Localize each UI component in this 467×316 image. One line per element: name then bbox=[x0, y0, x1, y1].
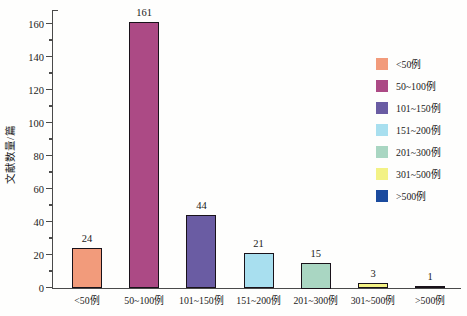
bar bbox=[186, 215, 216, 289]
y-tick-label: 100 bbox=[18, 117, 44, 128]
legend-swatch bbox=[376, 58, 388, 70]
bar bbox=[301, 263, 331, 289]
y-major-tick bbox=[46, 56, 52, 57]
y-minor-tick bbox=[49, 204, 53, 205]
y-tick-label: 60 bbox=[18, 183, 44, 194]
x-tick-label: 50~100例 bbox=[111, 293, 177, 307]
x-tick-label: 151~200例 bbox=[226, 293, 292, 307]
y-minor-tick bbox=[49, 237, 53, 238]
y-tick-label: 0 bbox=[18, 282, 44, 293]
legend-label: 201~300例 bbox=[396, 145, 441, 159]
bar-value-label: 3 bbox=[351, 268, 395, 279]
x-tick-label: >500例 bbox=[397, 293, 463, 307]
y-tick-label: 40 bbox=[18, 216, 44, 227]
y-tick-label: 160 bbox=[18, 18, 44, 29]
legend-item: 50~100例 bbox=[376, 75, 441, 97]
y-tick-label: 80 bbox=[18, 150, 44, 161]
y-major-tick bbox=[46, 122, 52, 123]
legend-swatch bbox=[376, 168, 388, 180]
legend-swatch bbox=[376, 190, 388, 202]
y-minor-tick bbox=[49, 39, 53, 40]
x-tick-label: 101~150例 bbox=[168, 293, 234, 307]
y-major-tick bbox=[46, 188, 52, 189]
y-axis-top-cap bbox=[52, 10, 58, 11]
y-axis-line bbox=[52, 10, 53, 289]
legend-swatch bbox=[376, 124, 388, 136]
bar bbox=[244, 253, 274, 289]
x-tick-label: <50例 bbox=[54, 293, 120, 307]
y-minor-tick bbox=[49, 270, 53, 271]
bar-value-label: 21 bbox=[237, 238, 281, 249]
x-tick-label: 201~300例 bbox=[283, 293, 349, 307]
y-minor-tick bbox=[49, 105, 53, 106]
y-minor-tick bbox=[49, 72, 53, 73]
y-major-tick bbox=[46, 23, 52, 24]
legend-label: 151~200例 bbox=[396, 123, 441, 137]
bar-value-label: 24 bbox=[65, 233, 109, 244]
y-major-tick bbox=[46, 89, 52, 90]
legend-swatch bbox=[376, 80, 388, 92]
legend-label: 50~100例 bbox=[396, 79, 436, 93]
legend-item: >500例 bbox=[376, 185, 441, 207]
legend-item: <50例 bbox=[376, 53, 441, 75]
y-major-tick bbox=[46, 221, 52, 222]
y-major-tick bbox=[46, 287, 52, 288]
bar-chart: 文献数量/篇 020406080100120140160 24161442115… bbox=[0, 0, 467, 316]
bar bbox=[358, 283, 388, 289]
legend-label: <50例 bbox=[396, 57, 421, 71]
legend-item: 101~150例 bbox=[376, 97, 441, 119]
bar-value-label: 15 bbox=[294, 248, 338, 259]
legend-swatch bbox=[376, 146, 388, 158]
legend-label: 101~150例 bbox=[396, 101, 441, 115]
bar bbox=[129, 22, 159, 289]
y-axis-title: 文献数量/篇 bbox=[2, 90, 17, 220]
y-minor-tick bbox=[49, 138, 53, 139]
legend-swatch bbox=[376, 102, 388, 114]
legend-item: 201~300例 bbox=[376, 141, 441, 163]
y-major-tick bbox=[46, 155, 52, 156]
legend-item: 301~500例 bbox=[376, 163, 441, 185]
y-tick-label: 120 bbox=[18, 84, 44, 95]
bar-value-label: 161 bbox=[122, 7, 166, 18]
bar bbox=[72, 248, 102, 289]
legend: <50例50~100例101~150例151~200例201~300例301~5… bbox=[376, 53, 441, 207]
legend-label: >500例 bbox=[396, 189, 426, 203]
bar bbox=[415, 286, 445, 289]
y-tick-label: 140 bbox=[18, 51, 44, 62]
y-tick-label: 20 bbox=[18, 249, 44, 260]
legend-label: 301~500例 bbox=[396, 167, 441, 181]
y-major-tick bbox=[46, 254, 52, 255]
bar-value-label: 1 bbox=[408, 271, 452, 282]
x-tick-label: 301~500例 bbox=[340, 293, 406, 307]
legend-item: 151~200例 bbox=[376, 119, 441, 141]
y-minor-tick bbox=[49, 171, 53, 172]
bar-value-label: 44 bbox=[179, 200, 223, 211]
